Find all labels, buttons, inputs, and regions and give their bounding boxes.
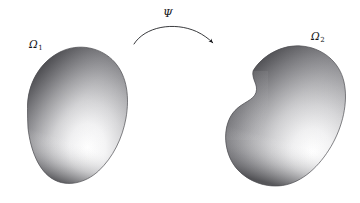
math-figure: Ω1 Ω2 Ψ bbox=[0, 0, 360, 203]
omega-1-subscript: 1 bbox=[38, 44, 43, 52]
omega-2-symbol: Ω bbox=[311, 30, 320, 42]
omega-2-blob bbox=[226, 46, 346, 186]
omega-1-blob bbox=[27, 47, 127, 183]
figure-canvas bbox=[0, 0, 360, 203]
omega-2-label: Ω2 bbox=[311, 30, 325, 42]
omega-2-subscript: 2 bbox=[320, 36, 325, 44]
omega-1-symbol: Ω bbox=[29, 38, 38, 50]
omega-1-label: Ω1 bbox=[29, 38, 43, 50]
psi-label: Ψ bbox=[163, 7, 173, 20]
mapping-arrow bbox=[134, 26, 213, 44]
omega-2-notch-shading bbox=[226, 71, 268, 140]
mapping-arrow-curve bbox=[134, 26, 213, 44]
omega-1-bottom-shadow bbox=[27, 47, 127, 183]
